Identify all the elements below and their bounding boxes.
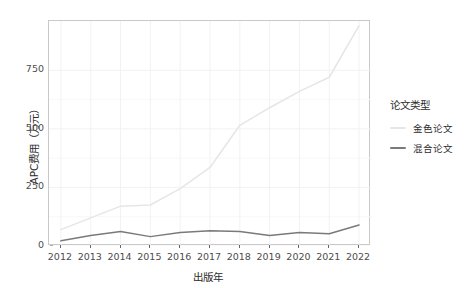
legend-line-swatch [390,143,406,153]
y-tick-label: 0 [10,240,44,250]
x-tick-mark [358,245,359,248]
x-tick-mark [298,245,299,248]
legend-title: 论文类型 [390,97,470,112]
x-tick-label: 2022 [341,251,375,262]
x-tick-mark [60,245,61,248]
y-axis-tick-labels: 0250500750 [6,20,44,245]
legend-item-label: 混合论文 [413,141,453,155]
chart-container: APC费用（万元） 0250500750 2012201320142015201… [0,0,470,288]
x-tick-mark [149,245,150,248]
legend-items: 金色论文混合论文 [390,121,470,155]
x-tick-mark [120,245,121,248]
legend: 论文类型 金色论文混合论文 [390,97,470,161]
x-tick-mark [90,245,91,248]
legend-item-label: 金色论文 [413,121,453,135]
legend-item[interactable]: 混合论文 [390,141,470,155]
y-tick-label: 500 [10,123,44,133]
plot-panel [48,20,370,245]
y-tick-label: 250 [10,181,44,191]
x-tick-mark [269,245,270,248]
legend-item[interactable]: 金色论文 [390,121,470,135]
x-tick-mark [209,245,210,248]
x-axis-title: 出版年 [45,268,370,284]
x-axis-tick-labels: 2012201320142015201620172018201920202021… [48,245,370,267]
gridlines [49,21,371,246]
legend-line-swatch [390,123,406,133]
x-tick-mark [328,245,329,248]
y-tick-label: 750 [10,64,44,74]
x-tick-mark [239,245,240,248]
x-tick-mark [179,245,180,248]
plot-area [49,21,371,246]
